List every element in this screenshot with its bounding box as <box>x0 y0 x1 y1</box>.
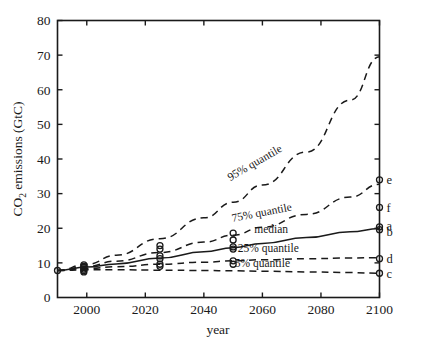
y-tick-label-40: 40 <box>37 152 51 167</box>
curve-label-median: median <box>254 223 288 235</box>
curve-label-5-quantile: 5% quantile <box>235 257 290 270</box>
y-tick-label-30: 30 <box>37 186 51 201</box>
y-tick-label-10: 10 <box>37 256 51 271</box>
x-tick-label-2020: 2020 <box>132 302 159 317</box>
endpoint-labels: efabdc <box>387 173 394 280</box>
endpoint-label-e: e <box>387 173 393 187</box>
scenario-marker <box>230 237 236 243</box>
endpoint-label-f: f <box>387 201 392 215</box>
x-tick-label-2040: 2040 <box>190 302 217 317</box>
curve-95-quantile <box>58 57 380 271</box>
endpoint-label-b: b <box>387 225 393 239</box>
plot-frame-rect <box>58 21 380 298</box>
x-axis-title: year <box>206 322 230 337</box>
curve-label-95-quantile: 95% quantile <box>225 142 284 184</box>
y-tick-label-50: 50 <box>37 117 51 132</box>
co2-emissions-chart-figure: 01020304050607080 2000202020402060208021… <box>0 0 421 356</box>
y-tick-label-60: 60 <box>37 83 51 98</box>
y-tick-label-20: 20 <box>37 221 51 236</box>
y-axis-title-post: emissions (GtC) <box>10 101 25 193</box>
curve-median <box>58 229 380 271</box>
y-tick-label-80: 80 <box>37 13 51 28</box>
y-tick-label-70: 70 <box>37 48 51 63</box>
y-tick-label-0: 0 <box>44 290 51 305</box>
x-tick-label-2060: 2060 <box>249 302 276 317</box>
chart-canvas: 01020304050607080 2000202020402060208021… <box>0 0 421 356</box>
curve-5-quantile <box>58 270 380 273</box>
endpoint-label-d: d <box>387 252 394 266</box>
y-axis-title-text: CO2 emissions (GtC) <box>10 101 28 216</box>
plot-frame <box>58 21 380 298</box>
x-tick-label-2100: 2100 <box>366 302 393 317</box>
y-axis: 01020304050607080 <box>37 13 380 305</box>
x-tick-label-2080: 2080 <box>307 302 334 317</box>
y-axis-title: CO2 emissions (GtC) <box>10 101 28 216</box>
y-axis-title-pre: CO <box>10 198 25 217</box>
quantile-curves <box>58 57 380 273</box>
curve-label-25-quantile: 25% quantile <box>238 242 299 255</box>
x-tick-label-2000: 2000 <box>73 302 100 317</box>
endpoint-label-c: c <box>387 267 393 281</box>
